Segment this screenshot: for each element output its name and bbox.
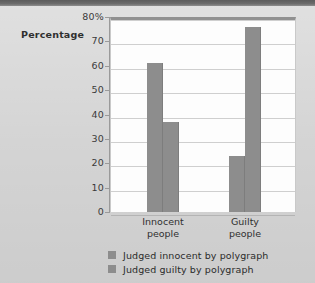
x-category-label-line: people xyxy=(200,228,290,240)
y-tick-mark-40 xyxy=(105,115,110,116)
y-tick-label-80: 80% xyxy=(44,11,104,22)
y-tick-label-60: 60 xyxy=(44,60,104,71)
y-tick-mark-60 xyxy=(105,66,110,67)
bar-1-0 xyxy=(229,156,245,212)
y-tick-label-70: 70 xyxy=(44,35,104,46)
bar-0-0 xyxy=(147,63,163,212)
legend-label: Judged guilty by polygraph xyxy=(123,264,254,275)
top-decorative-band xyxy=(0,0,315,6)
bars-layer xyxy=(110,17,296,212)
y-tick-label-50: 50 xyxy=(44,84,104,95)
legend-swatch-icon xyxy=(108,251,116,259)
x-category-label-0: Innocentpeople xyxy=(118,216,208,239)
legend-label: Judged innocent by polygraph xyxy=(123,250,269,261)
y-tick-mark-0 xyxy=(105,212,110,213)
y-tick-mark-10 xyxy=(105,188,110,189)
legend-item-0: Judged innocent by polygraph xyxy=(108,248,308,262)
x-category-label-1: Guiltypeople xyxy=(200,216,290,239)
y-tick-label-30: 30 xyxy=(44,133,104,144)
bar-1-1 xyxy=(245,27,261,212)
y-tick-label-0: 0 xyxy=(44,206,104,217)
x-category-label-line: Innocent xyxy=(118,216,208,228)
x-category-label-line: people xyxy=(118,228,208,240)
y-tick-mark-50 xyxy=(105,90,110,91)
y-tick-label-10: 10 xyxy=(44,182,104,193)
y-axis-tick-labels: 80%706050403020100 xyxy=(40,17,104,212)
y-tick-label-20: 20 xyxy=(44,157,104,168)
bar-0-1 xyxy=(163,122,179,212)
legend-swatch-icon xyxy=(108,265,116,273)
y-tick-mark-20 xyxy=(105,163,110,164)
y-tick-mark-80 xyxy=(105,17,110,18)
legend-item-1: Judged guilty by polygraph xyxy=(108,262,308,276)
y-tick-mark-30 xyxy=(105,139,110,140)
y-tick-mark-70 xyxy=(105,41,110,42)
chart-legend: Judged innocent by polygraphJudged guilt… xyxy=(108,248,308,276)
x-category-label-line: Guilty xyxy=(200,216,290,228)
chart-page: Percentage 80%706050403020100 Innocentpe… xyxy=(0,0,315,283)
y-tick-label-40: 40 xyxy=(44,109,104,120)
